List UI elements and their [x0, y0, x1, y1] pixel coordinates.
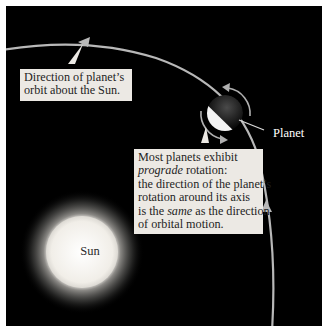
note-line-2: prograde rotation:: [138, 164, 259, 177]
orbit-label-pointer: [68, 44, 83, 64]
planet-label: Planet: [273, 126, 304, 141]
note-line-1: Most planets exhibit: [138, 151, 259, 164]
same-term: same: [167, 204, 192, 218]
prograde-term: prograde: [138, 163, 183, 177]
prograde-rotation-note: Most planets exhibit prograde rotation: …: [134, 149, 263, 234]
sun-label: Sun: [72, 244, 108, 259]
planet-pointer-line: [239, 120, 264, 130]
rotation-arrowhead-icon: [220, 135, 228, 144]
rotation-arrowhead-icon: [222, 83, 230, 92]
note-line-6: of orbital motion.: [138, 218, 259, 231]
note-line-3: the direction of the planet’s: [138, 178, 259, 191]
note-line-5: is the same as the direction: [138, 205, 259, 218]
diagram-frame: Direction of planet’s orbit about the Su…: [6, 6, 322, 326]
note-line-4: rotation around its axis: [138, 191, 259, 204]
orbit-direction-label: Direction of planet’s orbit about the Su…: [20, 69, 132, 101]
orbit-label-line-1: Direction of planet’s: [24, 71, 128, 84]
orbit-label-line-2: orbit about the Sun.: [24, 84, 128, 97]
prograde-label-pointer: [201, 127, 209, 143]
